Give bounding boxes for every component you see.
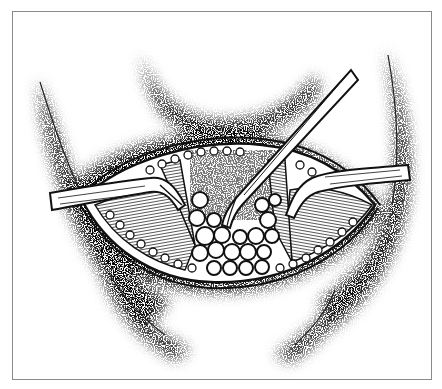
- surgical-illustration: [0, 0, 442, 389]
- illustration-canvas: [0, 0, 442, 389]
